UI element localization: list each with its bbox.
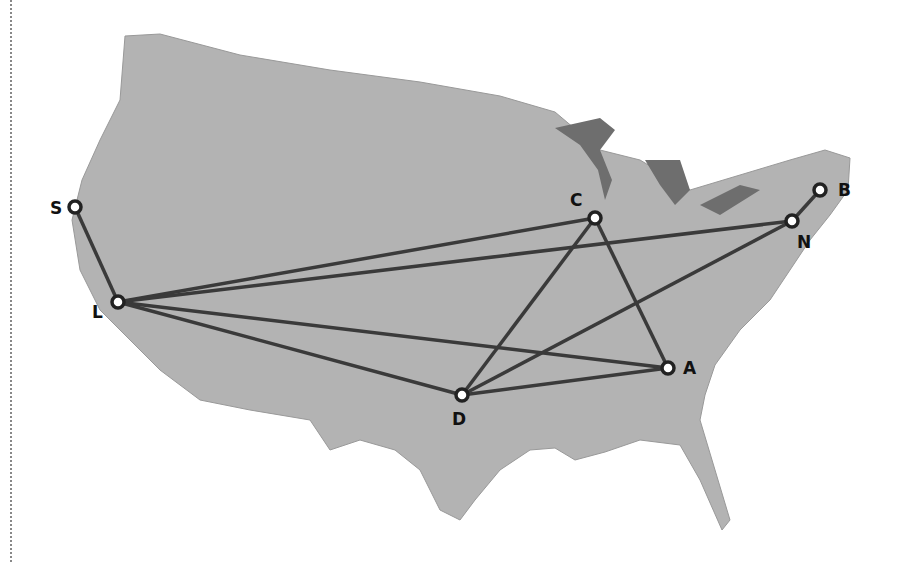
node-label-B: B bbox=[838, 180, 851, 200]
node-D bbox=[456, 389, 468, 401]
us-map-network: SLCNBDA bbox=[0, 0, 900, 562]
us-land-shape bbox=[72, 34, 850, 530]
node-L bbox=[112, 296, 124, 308]
node-S bbox=[69, 201, 81, 213]
node-N bbox=[786, 215, 798, 227]
node-A bbox=[662, 362, 674, 374]
node-label-N: N bbox=[797, 232, 811, 252]
node-label-A: A bbox=[683, 358, 697, 378]
node-C bbox=[589, 212, 601, 224]
node-label-S: S bbox=[50, 198, 62, 218]
node-label-C: C bbox=[570, 190, 582, 210]
node-label-D: D bbox=[452, 409, 466, 429]
node-B bbox=[814, 184, 826, 196]
node-label-L: L bbox=[92, 302, 103, 322]
